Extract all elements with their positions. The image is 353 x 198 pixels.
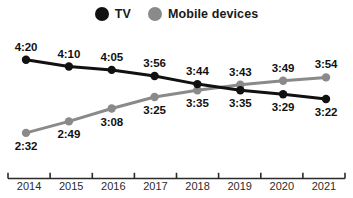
data-label-tv: 3:22 bbox=[315, 107, 338, 119]
plot-area bbox=[0, 0, 353, 175]
data-point-marker[interactable] bbox=[150, 72, 158, 80]
data-point-marker[interactable] bbox=[193, 80, 201, 88]
data-point-marker[interactable] bbox=[65, 117, 73, 125]
data-point-marker[interactable] bbox=[108, 104, 116, 112]
data-label-mobile-devices: 2:49 bbox=[58, 129, 81, 141]
data-label-mobile-devices: 3:49 bbox=[272, 63, 295, 75]
data-point-marker[interactable] bbox=[108, 66, 116, 74]
x-axis-label-2016: 2016 bbox=[101, 181, 125, 192]
x-axis-label-2019: 2019 bbox=[227, 181, 251, 192]
x-axis-label-2014: 2014 bbox=[17, 181, 41, 192]
data-label-mobile-devices: 3:35 bbox=[186, 98, 209, 110]
data-label-mobile-devices: 2:32 bbox=[15, 141, 38, 153]
x-axis-label-2021: 2021 bbox=[312, 181, 336, 192]
data-label-mobile-devices: 3:08 bbox=[100, 117, 123, 129]
data-label-tv: 4:05 bbox=[100, 52, 123, 64]
x-axis-label-2020: 2020 bbox=[270, 181, 294, 192]
data-label-mobile-devices: 3:43 bbox=[229, 67, 252, 79]
data-label-mobile-devices: 3:54 bbox=[315, 59, 338, 71]
data-label-tv: 3:35 bbox=[229, 98, 252, 110]
data-point-marker[interactable] bbox=[22, 129, 30, 137]
data-label-tv: 3:56 bbox=[143, 58, 166, 70]
x-axis-ticks bbox=[8, 173, 345, 179]
x-axis-label-2015: 2015 bbox=[59, 181, 83, 192]
line-chart: TV Mobile devices 4:204:104:053:563:443:… bbox=[0, 0, 353, 198]
data-label-tv: 4:10 bbox=[58, 49, 81, 61]
data-label-mobile-devices: 3:25 bbox=[143, 105, 166, 117]
data-point-marker[interactable] bbox=[236, 86, 244, 94]
x-axis-label-2017: 2017 bbox=[143, 181, 167, 192]
data-point-marker[interactable] bbox=[279, 90, 287, 98]
x-axis-labels: 20142015201620172018201920202021 bbox=[0, 181, 353, 198]
data-point-marker[interactable] bbox=[279, 77, 287, 85]
data-label-tv: 3:44 bbox=[186, 66, 209, 78]
data-point-marker[interactable] bbox=[150, 93, 158, 101]
x-axis-label-2018: 2018 bbox=[185, 181, 209, 192]
data-label-tv: 4:20 bbox=[15, 42, 38, 54]
data-point-marker[interactable] bbox=[322, 73, 330, 81]
data-point-marker[interactable] bbox=[322, 95, 330, 103]
data-label-tv: 3:29 bbox=[272, 102, 295, 114]
data-point-marker[interactable] bbox=[65, 62, 73, 70]
data-point-marker[interactable] bbox=[22, 56, 30, 64]
